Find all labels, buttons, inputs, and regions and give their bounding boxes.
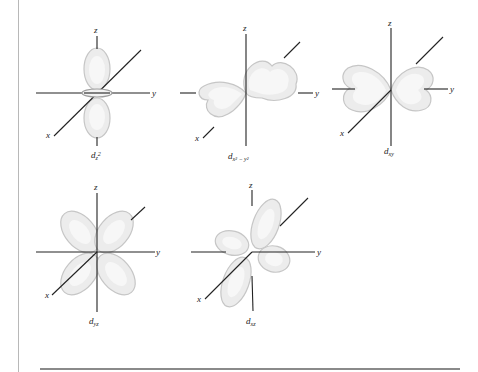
orbital-dyz: z y x dyz [36, 182, 160, 327]
z-axis-label: z [242, 23, 247, 33]
x-axis-label: x [45, 130, 50, 140]
y-axis-label: y [314, 88, 319, 98]
orbital-label-dxy: dxy [384, 146, 394, 157]
y-axis-label: y [316, 247, 321, 257]
x-axis-back [416, 37, 443, 64]
orbital-label-dx2-y2: dx² − y² [228, 151, 249, 162]
y-axis-label: y [155, 247, 160, 257]
d-orbitals-figure: z y x dz2 z y x dx² − y² z y x dxy [0, 0, 478, 372]
x-axis-back [280, 198, 308, 226]
orbital-label-dxz: dxz [246, 316, 256, 327]
x-axis-back [284, 42, 300, 58]
z-axis-label: z [93, 182, 98, 192]
orbital-dz2: z y x dz2 [36, 25, 156, 161]
z-axis-label: z [93, 25, 98, 35]
x-axis-label: x [196, 294, 201, 304]
x-axis-label: x [44, 290, 49, 300]
x-axis-label: x [194, 133, 199, 143]
x-axis-back [131, 207, 145, 220]
y-axis-label: y [151, 88, 156, 98]
orbital-dxy: z y x dxy [332, 18, 454, 157]
y-axis-label: y [449, 84, 454, 94]
orbital-dxz: z y x dxz [191, 180, 321, 327]
x-axis-front [203, 127, 214, 138]
z-axis-label: z [387, 18, 392, 28]
orbital-label-dyz: dyz [89, 316, 99, 327]
orbital-dx2-y2: z y x dx² − y² [180, 23, 319, 162]
z-axis-bottom [252, 276, 253, 311]
orbital-label-dz2: dz2 [91, 150, 101, 161]
x-axis-label: x [339, 128, 344, 138]
z-axis-label: z [248, 180, 253, 190]
